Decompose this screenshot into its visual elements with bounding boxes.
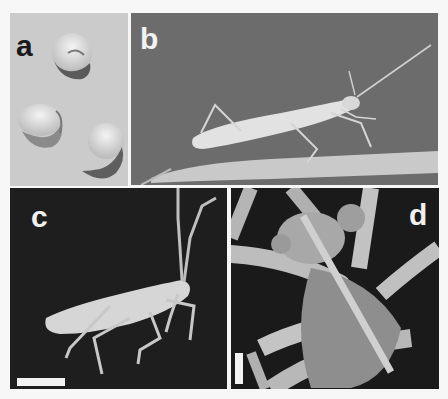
panel-label-a: a	[16, 31, 33, 61]
panel-label-c: c	[31, 202, 48, 232]
panel-label-d: d	[409, 200, 427, 230]
scale-bar-c	[17, 378, 65, 386]
panel-a: a	[10, 13, 128, 186]
panel-c: c	[10, 188, 227, 389]
nymph-on-stem-image	[131, 13, 438, 185]
sem-head-image	[231, 188, 439, 389]
panel-label-b: b	[140, 24, 158, 54]
panel-d: d	[231, 188, 439, 389]
panel-b: b	[131, 13, 438, 185]
scale-bar-d	[235, 353, 243, 384]
